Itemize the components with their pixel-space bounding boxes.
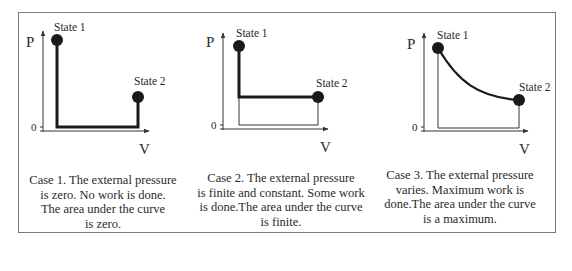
caption-line: done.The area under the curve: [375, 197, 545, 212]
area-outline: [438, 48, 519, 128]
caption-line: Case 2. The external pressure: [196, 171, 366, 186]
p-axis-label: P: [407, 36, 415, 52]
panel-case3: P V 0 State 1 State 2: [407, 29, 551, 157]
state1-label: State 1: [236, 27, 268, 39]
state2-point: [312, 91, 324, 103]
state2-label: State 2: [519, 81, 551, 93]
caption-line: is finite.: [196, 215, 366, 230]
v-axis-label: V: [320, 139, 331, 155]
process-path: [239, 46, 318, 97]
caption-line: is finite and constant. Some work: [196, 186, 366, 201]
state2-point: [132, 91, 144, 103]
state1-label: State 1: [54, 21, 86, 33]
process-path: [57, 40, 138, 127]
panel-case2: P V 0 State 1 State 2: [206, 27, 348, 155]
caption-line: Case 1. The external pressure: [18, 173, 188, 188]
caption-case3: Case 3. The external pressure varies. Ma…: [375, 168, 545, 226]
caption-line: is a maximum.: [375, 212, 545, 227]
v-axis-label: V: [519, 141, 530, 157]
caption-line: is zero. No work is done.: [18, 188, 188, 203]
state1-label: State 1: [437, 29, 469, 41]
v-axis-label: V: [139, 141, 150, 157]
state2-label: State 2: [134, 75, 166, 87]
caption-case1: Case 1. The external pressure is zero. N…: [18, 173, 188, 231]
state1-point: [51, 34, 63, 46]
state1-point: [233, 40, 245, 52]
caption-line: The area under the curve: [18, 202, 188, 217]
panel-case1: P V 0 State 1 State 2: [26, 21, 166, 157]
caption-line: is done.The area under the curve: [196, 200, 366, 215]
p-axis-label: P: [26, 34, 34, 50]
origin-label: 0: [211, 119, 217, 131]
caption-line: is zero.: [18, 217, 188, 232]
origin-label: 0: [412, 121, 418, 133]
process-curve: [438, 48, 519, 100]
caption-line: varies. Maximum work is: [375, 183, 545, 198]
area-outline: [239, 97, 318, 125]
state2-point: [513, 94, 525, 106]
origin-label: 0: [31, 121, 37, 133]
state1-point: [432, 42, 444, 54]
p-axis-label: P: [206, 34, 214, 50]
state2-label: State 2: [316, 77, 348, 89]
caption-case2: Case 2. The external pressure is finite …: [196, 171, 366, 229]
caption-line: Case 3. The external pressure: [375, 168, 545, 183]
